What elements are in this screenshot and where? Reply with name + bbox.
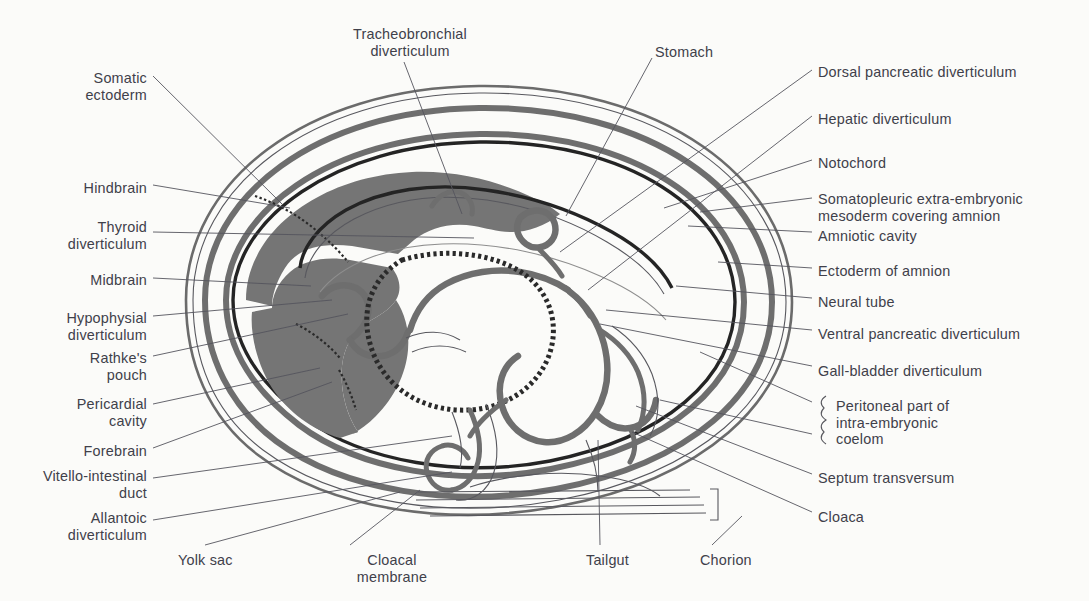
- label-notochord: Notochord: [818, 155, 886, 172]
- label-forebrain: Forebrain: [65, 443, 147, 460]
- label-chorion: Chorion: [700, 552, 752, 569]
- label-dorsal-pancreatic-diverticulum: Dorsal pancreatic diverticulum: [818, 64, 1017, 81]
- label-hepatic-diverticulum: Hepatic diverticulum: [818, 111, 952, 128]
- label-hindbrain: Hindbrain: [62, 180, 147, 197]
- label-rathkes-pouch: Rathke's pouch: [70, 350, 147, 383]
- embryo-body: [246, 172, 560, 438]
- embryo-diagram-figure: .ll{stroke:#55555e;stroke-width:0.9;fill…: [0, 0, 1089, 601]
- label-tailgut: Tailgut: [586, 552, 629, 569]
- label-yolk-sac: Yolk sac: [178, 552, 233, 569]
- hindgut-tailgut: [470, 292, 656, 492]
- label-allantoic-diverticulum: Allantoic diverticulum: [40, 510, 147, 543]
- label-stomach: Stomach: [655, 44, 745, 61]
- label-thyroid-diverticulum: Thyroid diverticulum: [40, 219, 147, 252]
- label-tracheobronchial-diverticulum: Tracheobronchial diverticulum: [335, 26, 485, 59]
- label-gall-bladder-diverticulum: Gall-bladder diverticulum: [818, 363, 982, 380]
- label-amniotic-cavity: Amniotic cavity: [818, 228, 917, 245]
- label-septum-transversum: Septum transversum: [818, 470, 954, 487]
- label-somatopleuric-mesoderm: Somatopleuric extra-embryonic mesoderm c…: [818, 191, 1023, 224]
- label-ventral-pancreatic-diverticulum: Ventral pancreatic diverticulum: [818, 326, 1020, 343]
- label-cloaca: Cloaca: [818, 509, 864, 526]
- label-vitello-intestinal-duct: Vitello-intestinal duct: [14, 468, 147, 501]
- septum-transversum-mass: [406, 326, 658, 436]
- label-peritoneal-part-coelom: Peritoneal part of intra-embryonic coelo…: [836, 398, 949, 448]
- label-pericardial-cavity: Pericardial cavity: [50, 396, 147, 429]
- label-hypophysial-diverticulum: Hypophysial diverticulum: [40, 310, 147, 343]
- label-ectoderm-of-amnion: Ectoderm of amnion: [818, 263, 950, 280]
- embryo-diagram-svg: .ll{stroke:#55555e;stroke-width:0.9;fill…: [0, 0, 1089, 601]
- label-cloacal-membrane: Cloacal membrane: [337, 552, 447, 585]
- label-somatic-ectoderm: Somatic ectoderm: [52, 70, 147, 103]
- label-neural-tube: Neural tube: [818, 294, 895, 311]
- label-midbrain: Midbrain: [70, 272, 147, 289]
